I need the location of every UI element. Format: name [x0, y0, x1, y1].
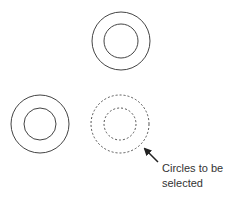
- inner-circle: [24, 108, 56, 140]
- annotation-arrow-icon: [145, 149, 158, 162]
- diagram-canvas: Circles to be selected: [0, 0, 238, 201]
- circle-group-bottom-left: [11, 95, 69, 153]
- inner-circle-dashed: [104, 108, 136, 140]
- inner-circle: [104, 24, 138, 58]
- circle-group-top: [92, 12, 150, 70]
- outer-circle: [92, 12, 150, 70]
- annotation-line-1: Circles to be: [162, 162, 223, 175]
- outer-circle-dashed: [91, 95, 149, 153]
- outer-circle: [11, 95, 69, 153]
- annotation-line-2: selected: [162, 177, 203, 190]
- circle-group-selected: [91, 95, 149, 153]
